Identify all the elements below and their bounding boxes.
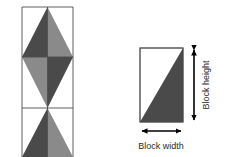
block-width-label: Block width <box>138 141 184 151</box>
block-pattern-figure: Block height Block width <box>0 0 230 157</box>
figure-root: Block height Block width <box>0 0 230 157</box>
block-height-label: Block height <box>201 60 211 110</box>
